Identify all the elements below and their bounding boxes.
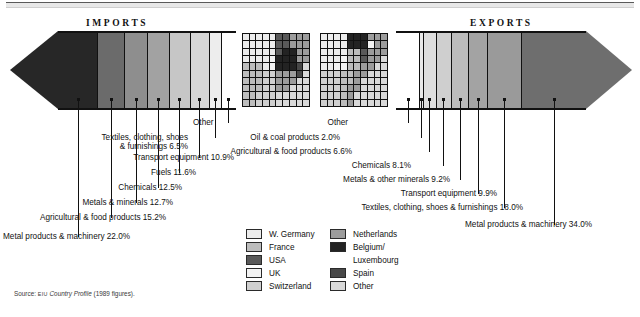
grid-cell bbox=[368, 71, 374, 77]
grid-cell bbox=[354, 41, 360, 47]
grid-cell bbox=[361, 34, 367, 40]
legend-item: France bbox=[246, 241, 315, 254]
legend-swatch bbox=[246, 255, 262, 265]
grid-cell bbox=[297, 41, 303, 47]
grid-cell bbox=[243, 63, 249, 69]
grid-cell bbox=[334, 78, 340, 84]
grid-cell bbox=[354, 56, 360, 62]
grid-cell bbox=[341, 92, 347, 98]
legend-item: Other bbox=[330, 280, 399, 293]
callout-label: Metal products & machinery 22.0% bbox=[3, 232, 130, 241]
callout-label: Textiles, clothing, shoes bbox=[102, 133, 188, 142]
grid-cell bbox=[243, 71, 249, 77]
grid-cell bbox=[341, 78, 347, 84]
grid-cell bbox=[256, 34, 262, 40]
grid-cell bbox=[297, 100, 303, 106]
legend-label: Luxembourg bbox=[353, 254, 399, 267]
grid-cell bbox=[256, 92, 262, 98]
legend-swatch bbox=[330, 268, 346, 278]
grid-cell bbox=[290, 56, 296, 62]
grid-cell bbox=[283, 100, 289, 106]
grid-cell bbox=[348, 100, 354, 106]
grid-cell bbox=[276, 49, 282, 55]
grid-cell bbox=[348, 92, 354, 98]
grid-cell bbox=[361, 85, 367, 91]
grid-cell bbox=[270, 85, 276, 91]
source-note: Source: EIU Country Profile (1989 figure… bbox=[14, 290, 135, 297]
grid-cell bbox=[303, 71, 309, 77]
grid-cell bbox=[283, 71, 289, 77]
grid-cell bbox=[368, 63, 374, 69]
grid-cell bbox=[368, 85, 374, 91]
grid-cell bbox=[348, 63, 354, 69]
grid-cell bbox=[361, 78, 367, 84]
grid-cell bbox=[341, 56, 347, 62]
grid-cell bbox=[270, 41, 276, 47]
grid-cell bbox=[303, 92, 309, 98]
grid-cell bbox=[250, 78, 256, 84]
legend-label: France bbox=[269, 241, 294, 254]
callout-label: Transport equipment 9.9% bbox=[401, 189, 497, 198]
legend-label: Other bbox=[353, 280, 373, 293]
exports-title: EXPORTS bbox=[470, 18, 533, 28]
grid-cell bbox=[270, 92, 276, 98]
grid-cell bbox=[283, 78, 289, 84]
grid-cell bbox=[381, 56, 387, 62]
grid-cell bbox=[303, 78, 309, 84]
grid-cell bbox=[250, 63, 256, 69]
source-org: EIU bbox=[38, 291, 48, 297]
grid-cell bbox=[270, 78, 276, 84]
grid-cell bbox=[263, 34, 269, 40]
grid-cell bbox=[270, 34, 276, 40]
grid-cell bbox=[381, 71, 387, 77]
grid-cell bbox=[348, 71, 354, 77]
grid-cell bbox=[283, 34, 289, 40]
grid-cell bbox=[375, 71, 381, 77]
arrow-head bbox=[586, 31, 632, 109]
grid-cell bbox=[263, 100, 269, 106]
grid-cell bbox=[283, 92, 289, 98]
grid-cell bbox=[303, 63, 309, 69]
grid-cell bbox=[250, 92, 256, 98]
grid-cell bbox=[290, 92, 296, 98]
grid-cell bbox=[263, 85, 269, 91]
callout-label: Metals & other minerals 9.2% bbox=[343, 175, 450, 184]
callout-label: Chemicals 8.1% bbox=[352, 161, 411, 170]
grid-cell bbox=[256, 100, 262, 106]
grid-cell bbox=[381, 41, 387, 47]
leader-line bbox=[504, 101, 505, 208]
grid-cell bbox=[263, 56, 269, 62]
grid-cell bbox=[250, 56, 256, 62]
legend-label: Belgium/ bbox=[353, 241, 385, 254]
grid-cell bbox=[381, 92, 387, 98]
grid-cell bbox=[354, 100, 360, 106]
grid-cell bbox=[276, 34, 282, 40]
grid-cell bbox=[361, 41, 367, 47]
grid-cell bbox=[321, 100, 327, 106]
grid-cell bbox=[263, 78, 269, 84]
legend-label: W. Germany bbox=[269, 228, 315, 241]
leader-line bbox=[228, 101, 229, 123]
grid-cell bbox=[328, 100, 334, 106]
grid-cell bbox=[334, 34, 340, 40]
grid-cell bbox=[321, 78, 327, 84]
callout-label: Fuels 11.6% bbox=[151, 168, 196, 177]
grid-cell bbox=[297, 34, 303, 40]
grid-cell bbox=[283, 63, 289, 69]
grid-cell bbox=[321, 92, 327, 98]
grid-cell bbox=[348, 56, 354, 62]
legend-column-partners-right: NetherlandsBelgium/LuxembourgSpainOther bbox=[330, 228, 399, 293]
grid-cell bbox=[276, 63, 282, 69]
grid-cell bbox=[297, 92, 303, 98]
grid-cell bbox=[354, 92, 360, 98]
grid-cell bbox=[283, 49, 289, 55]
grid-cell bbox=[375, 41, 381, 47]
legend-item: UK bbox=[246, 267, 315, 280]
grid-cell bbox=[290, 71, 296, 77]
grid-cell bbox=[250, 71, 256, 77]
grid-cell bbox=[263, 92, 269, 98]
grid-cell bbox=[263, 41, 269, 47]
grid-cell bbox=[375, 56, 381, 62]
grid-cell bbox=[270, 100, 276, 106]
grid-cell bbox=[348, 41, 354, 47]
